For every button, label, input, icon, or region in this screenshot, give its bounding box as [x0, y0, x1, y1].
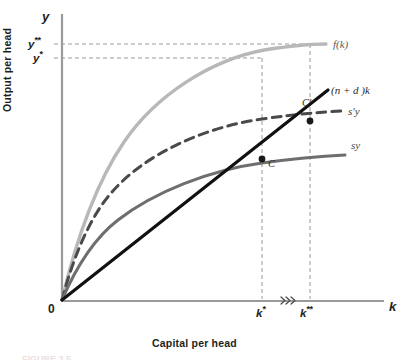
- y-star-marks: *: [39, 49, 42, 59]
- x-tick-label-k-double-star: k**: [300, 305, 312, 319]
- k-double-star-marks: **: [306, 304, 312, 314]
- y-tick-label-y-star: y*: [33, 50, 42, 64]
- y-axis-variable-label: y: [42, 10, 49, 23]
- curve-label-break-even-line: (n + d )k: [331, 85, 370, 96]
- solow-growth-diagram: y k 0 y** y* k* k** f(k) (n + d )k s'y s…: [0, 0, 407, 360]
- y-axis-title: Output per head: [2, 28, 13, 112]
- x-axis-variable-label: k: [389, 300, 396, 313]
- curve-production-function: [62, 44, 326, 300]
- curve-label-old-saving: sy: [351, 140, 360, 151]
- point-label-C-prime: C': [302, 98, 311, 109]
- point-C-prime: [307, 118, 314, 125]
- line-break-even-investment: [62, 90, 328, 300]
- x-tick-label-k-star: k*: [256, 305, 265, 319]
- x-axis-title: Capital per head: [152, 338, 237, 349]
- curve-new-saving: [62, 111, 342, 300]
- origin-label: 0: [48, 303, 55, 315]
- curve-label-production-function: f(k): [333, 39, 348, 50]
- y-double-star-marks: **: [34, 35, 40, 45]
- k-star-marks: *: [262, 304, 265, 314]
- point-label-C: C: [268, 159, 275, 170]
- chart-canvas: [0, 0, 407, 360]
- point-C: [259, 156, 266, 163]
- figure-caption: FIGURE 3.5: [22, 354, 71, 360]
- curve-label-new-saving: s'y: [348, 106, 360, 117]
